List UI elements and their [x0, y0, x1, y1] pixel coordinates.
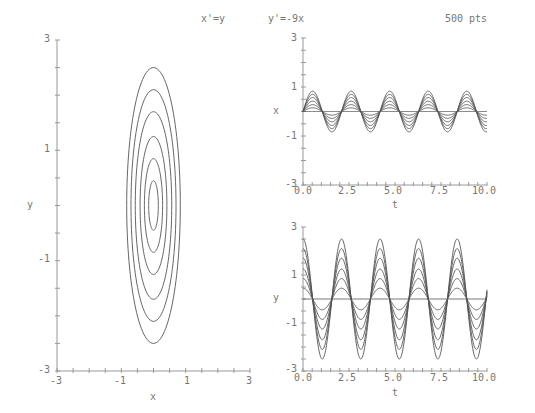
xt-xtick-0: 0.0	[294, 186, 312, 196]
xt-xtick-5: 5.0	[384, 186, 402, 196]
xt-ytick-3: 3	[291, 33, 297, 43]
phase-xtick-neg3: -3	[50, 376, 62, 386]
phase-orbit	[127, 68, 181, 344]
xt-xtick-2.5: 2.5	[338, 186, 356, 196]
equation-y: y'=-9x	[268, 14, 304, 24]
phase-xtick-3: 3	[246, 376, 252, 386]
phase-orbit	[149, 181, 159, 231]
phase-ytick-1: 1	[44, 144, 50, 154]
phase-ytick-3: 3	[44, 34, 50, 44]
point-count: 500 pts	[445, 14, 487, 24]
equation-x: x'=y	[201, 14, 225, 24]
yt-ytick-3: 3	[291, 222, 297, 232]
phase-ytick-neg3: -3	[38, 365, 50, 375]
phase-orbit	[131, 90, 176, 322]
xt-xlabel: t	[392, 200, 398, 210]
xt-xtick-7.5: 7.5	[430, 186, 448, 196]
yt-ylabel: y	[273, 293, 279, 303]
yt-xtick-7.5: 7.5	[430, 373, 448, 383]
yt-ytick-1: 1	[291, 270, 297, 280]
yt-xlabel: t	[392, 388, 398, 398]
phase-orbit	[144, 159, 162, 253]
phase-xtick-1: 1	[184, 376, 190, 386]
xt-ylabel: x	[273, 106, 279, 116]
plots-canvas	[0, 0, 535, 413]
xt-ytick-1: 1	[291, 82, 297, 92]
phase-ytick-neg1: -1	[38, 254, 50, 264]
yt-xtick-2.5: 2.5	[338, 373, 356, 383]
phase-xtick-neg1: -1	[114, 376, 126, 386]
yt-xtick-5: 5.0	[384, 373, 402, 383]
xt-ytick-neg1: -1	[285, 131, 297, 141]
phase-orbit	[135, 112, 171, 300]
xt-xtick-10: 10.0	[472, 186, 496, 196]
phase-xlabel: x	[150, 392, 156, 402]
yt-xtick-10: 10.0	[472, 373, 496, 383]
phase-ylabel: y	[27, 200, 33, 210]
yt-ytick-neg1: -1	[285, 318, 297, 328]
yt-xtick-0: 0.0	[294, 373, 312, 383]
